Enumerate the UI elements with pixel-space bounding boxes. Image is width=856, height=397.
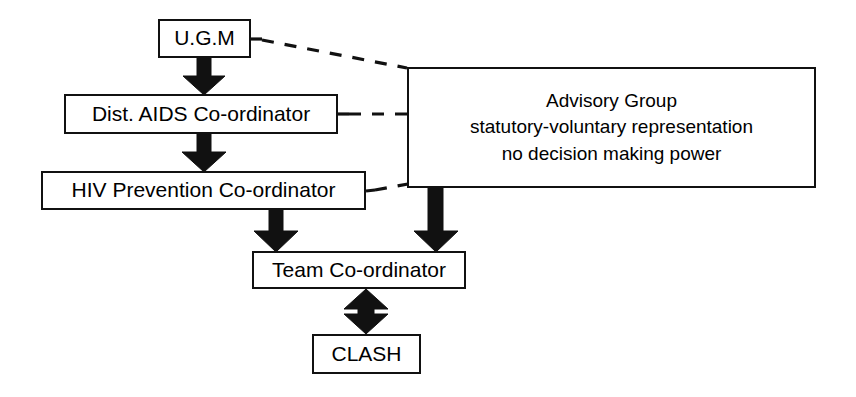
arrow-advisory-group-to-team-coordinator [414, 187, 458, 252]
diagram-canvas: U.G.M Dist. AIDS Co-ordinator HIV Preven… [0, 0, 856, 397]
node-advisory-group-line-3: no decision making power [502, 141, 722, 167]
node-advisory-group[interactable]: Advisory Group statutory-voluntary repre… [407, 67, 816, 188]
node-advisory-group-line-2: statutory-voluntary representation [470, 114, 753, 140]
node-dist-aids-coordinator[interactable]: Dist. AIDS Co-ordinator [64, 94, 338, 134]
node-hiv-prevention-coordinator-label: HIV Prevention Co-ordinator [72, 177, 336, 204]
arrow-hiv-prevention-to-team-coordinator [254, 209, 298, 252]
dashed-hiv-prevention-to-advisory-group [375, 184, 408, 190]
node-ugm-label: U.G.M [174, 25, 235, 52]
node-dist-aids-coordinator-label: Dist. AIDS Co-ordinator [92, 101, 310, 128]
node-hiv-prevention-coordinator[interactable]: HIV Prevention Co-ordinator [41, 171, 366, 210]
stub-hiv-prevention-right [366, 190, 375, 191]
arrow-ugm-to-dist-aids [183, 57, 225, 95]
node-advisory-group-title: Advisory Group [546, 88, 677, 114]
node-clash[interactable]: CLASH [312, 334, 421, 374]
node-clash-label: CLASH [331, 341, 401, 368]
node-team-coordinator-label: Team Co-ordinator [272, 257, 446, 284]
node-ugm[interactable]: U.G.M [158, 19, 251, 58]
arrow-team-coordinator-to-clash [344, 289, 388, 334]
dashed-ugm-to-advisory-group [262, 40, 407, 68]
node-team-coordinator[interactable]: Team Co-ordinator [252, 251, 466, 289]
arrow-dist-aids-to-hiv-prevention [182, 133, 226, 172]
